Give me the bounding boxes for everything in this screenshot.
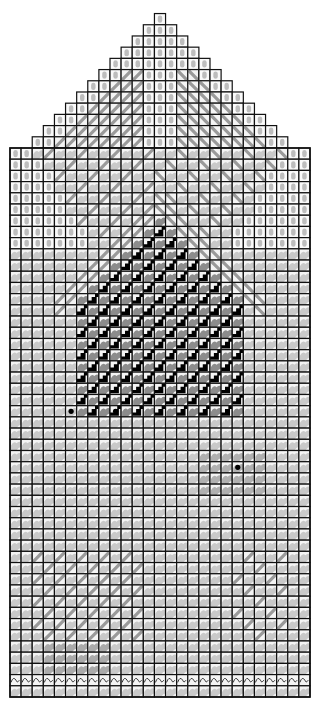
knitting-chart bbox=[0, 0, 321, 704]
